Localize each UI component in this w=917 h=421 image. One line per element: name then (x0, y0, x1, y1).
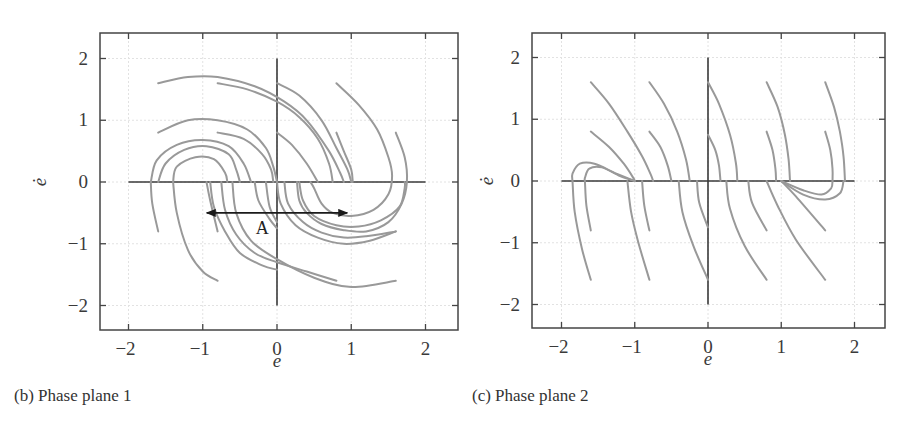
y-tick-label: 2 (511, 47, 521, 68)
figure-canvas: −2−1012210−1−2eėA −2−1012210−1−2eė (0, 0, 917, 421)
phase-trajectory (173, 157, 227, 182)
phase-plane-2-chart: −2−1012210−1−2eė (476, 33, 885, 369)
phase-trajectory (767, 82, 790, 181)
phase-trajectory (158, 76, 344, 182)
phase-trajectory (158, 146, 240, 182)
x-tick-label: 1 (777, 336, 787, 357)
phase-trajectory (825, 82, 845, 181)
annotation-label-a: A (256, 218, 269, 238)
phase-trajectory (573, 181, 591, 280)
y-tick-label: 1 (511, 108, 521, 129)
x-axis-label: e (273, 350, 281, 371)
y-axis-label: ė (29, 178, 50, 186)
phase-plane-1-chart: −2−1012210−1−2eėA (29, 33, 458, 371)
phase-trajectory (679, 181, 708, 280)
caption-phase-plane-1: (b) Phase plane 1 (14, 386, 132, 406)
phase-trajectory (649, 82, 689, 181)
x-tick-label: −1 (622, 336, 642, 357)
x-tick-label: 2 (421, 338, 431, 359)
caption-phase-plane-2: (c) Phase plane 2 (472, 386, 589, 406)
phase-trajectory (726, 181, 766, 280)
x-tick-label: −2 (548, 336, 568, 357)
phase-trajectory (697, 181, 708, 227)
x-tick-label: −2 (115, 338, 135, 359)
y-tick-label: 0 (79, 171, 89, 192)
x-axis-label: e (704, 348, 712, 369)
phase-trajectory (748, 181, 766, 230)
phase-trajectory (825, 132, 832, 181)
x-tick-label: 2 (850, 336, 860, 357)
phase-trajectory (151, 182, 158, 231)
y-tick-label: 1 (79, 109, 89, 130)
y-tick-label: 0 (511, 170, 521, 191)
x-tick-label: 1 (347, 338, 357, 359)
phase-trajectory (627, 181, 649, 280)
phase-trajectory (708, 82, 737, 181)
phase-trajectory (649, 132, 671, 181)
y-tick-label: −1 (68, 233, 88, 254)
phase-trajectory (277, 133, 318, 182)
y-tick-label: −2 (500, 294, 520, 315)
phase-trajectory (207, 182, 218, 231)
phase-trajectory (642, 181, 649, 230)
x-tick-label: −1 (190, 338, 210, 359)
phase-trajectory (585, 181, 591, 230)
phase-trajectory (781, 181, 825, 230)
phase-trajectory (591, 132, 635, 181)
phase-trajectory (708, 135, 721, 181)
y-tick-label: 2 (79, 48, 89, 69)
y-axis-label: ė (476, 177, 497, 185)
y-tick-label: −2 (68, 295, 88, 316)
y-tick-label: −1 (500, 232, 520, 253)
phase-trajectory (767, 132, 777, 181)
